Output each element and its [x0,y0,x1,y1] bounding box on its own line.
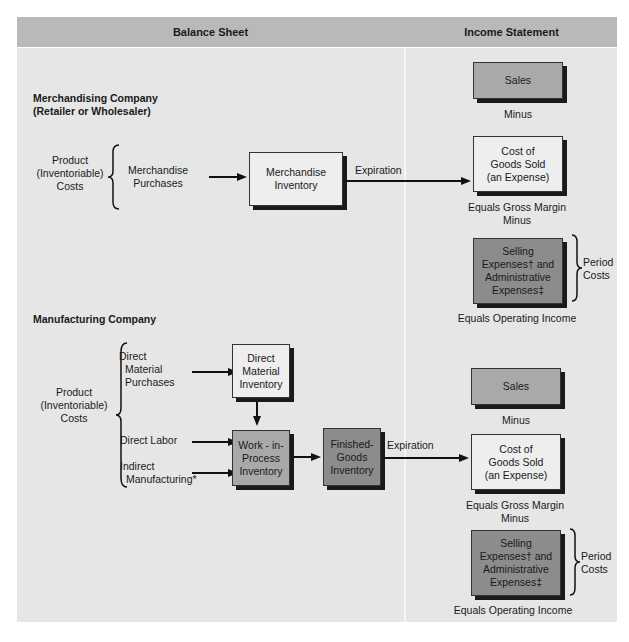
merch-expenses-box: SellingExpenses† andAdministrativeExpens… [473,238,563,304]
arrow-right-icon [459,454,469,462]
income-statement-heading: Income Statement [406,17,617,47]
mfg-operating-income-label: Equals Operating Income [443,604,583,617]
merch-sales-box: Sales [473,62,563,99]
merchandising-title: Merchandising Company (Retailer or Whole… [33,92,158,118]
mfg-sales-box: Sales [471,368,561,405]
direct-labor-arrow-line [192,441,230,443]
arrow-right-icon [461,177,471,185]
manufacturing-title: Manufacturing Company [33,313,156,326]
dm-purchase-arrow-line [192,371,230,373]
direct-material-inventory-box: DirectMaterialInventory [232,344,290,398]
wip-to-fg-arrow-line [293,456,313,458]
header-band: Balance Sheet Income Statement [17,17,617,47]
mfg-period-costs-label: Period Costs [581,550,611,576]
diagram-panel: Merchandising Company (Retailer or Whole… [17,48,617,622]
indirect-manufacturing-label: Indirect Manufacturing* [120,460,197,486]
merch-period-brace-icon [571,234,583,302]
arrow-right-icon [237,173,247,181]
merch-purchase-arrow-line [209,176,239,178]
merch-product-costs-label: Product (Inventoriable) Costs [32,154,108,193]
mfg-period-brace-icon [569,528,581,596]
merch-period-costs-label: Period Costs [583,256,613,282]
balance-sheet-heading: Balance Sheet [17,17,404,47]
mfg-expenses-box: SellingExpenses† andAdministrativeExpens… [471,530,561,596]
mfg-product-costs-label: Product (Inventoriable) Costs [31,386,117,425]
merchandise-inventory-box: MerchandiseInventory [249,152,343,206]
direct-material-purchases-label: Direct Material Purchases [119,350,175,389]
direct-labor-label: Direct Labor [120,434,177,447]
arrow-down-icon [253,416,261,426]
merch-operating-income-label: Equals Operating Income [447,312,587,325]
arrow-right-icon [311,453,321,461]
mfg-gross-margin-label: Equals Gross Margin Minus [455,499,575,525]
merch-minus-label: Minus [473,108,563,121]
mfg-minus-label: Minus [471,414,561,427]
finished-goods-inventory-box: Finished-GoodsInventory [323,428,381,486]
merch-gross-margin-label: Equals Gross Margin Minus [457,201,577,227]
merch-expiration-label: Expiration [355,164,402,177]
indirect-mfg-arrow-line [192,472,230,474]
merch-cogs-box: Cost ofGoods Sold(an Expense) [473,136,563,192]
mfg-expiration-label: Expiration [387,439,434,452]
column-divider [404,48,406,622]
mfg-expiration-arrow-line [383,457,461,459]
merchandise-purchases-label: Merchandise Purchases [117,164,199,190]
wip-inventory-box: Work - in-ProcessInventory [232,430,290,486]
mfg-cogs-box: Cost ofGoods Sold(an Expense) [471,434,561,490]
merch-expiration-arrow-line [345,180,463,182]
